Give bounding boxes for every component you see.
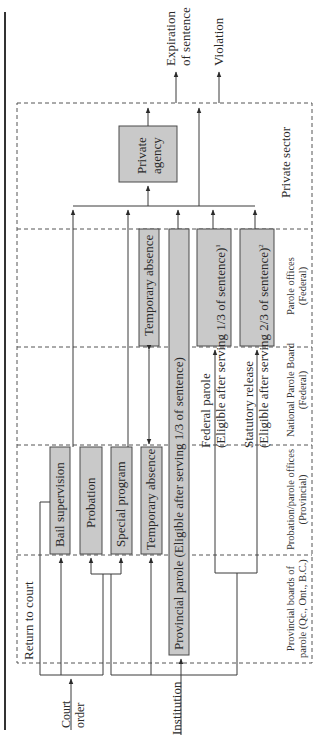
flow-diagram: [0, 0, 327, 745]
temporary-absence-provincial-label: Temporary absence: [144, 449, 159, 550]
statutory-release-label: Statutory release (Eligible after servin…: [242, 244, 272, 448]
private-sector-label: Private sector: [279, 127, 294, 198]
violation-label: Violation: [212, 18, 227, 66]
bail-supervision-label: Bail supervision: [53, 462, 68, 547]
parole-offices-federal-label: Parole offices (Federal): [285, 257, 309, 315]
court-order-label: Court order: [60, 701, 88, 728]
temporary-absence-federal-label: Temporary absence: [142, 235, 157, 336]
expiration-label: Expiration of sentence: [164, 7, 194, 66]
provincial-parole-label: Provincial parole (Eligible after servin…: [172, 357, 187, 650]
federal-parole-label: Federal parole (Eligible after serving 1…: [199, 244, 229, 448]
special-program-label: Special program: [114, 461, 129, 547]
footnote-2: 2: [257, 244, 265, 248]
probation-label: Probation: [84, 477, 99, 528]
provincial-boards-label: Provincial boards of parole (Qc., Ont., …: [285, 559, 309, 658]
private-agency-label: Private agency: [135, 137, 165, 174]
national-parole-board-label: National Parole Board (Federal): [285, 343, 309, 437]
return-to-court-label: Return to court: [22, 581, 37, 660]
footnote-1: 1: [214, 244, 222, 248]
probation-offices-provincial-label: Probation/parole offices (Provincial): [285, 449, 309, 550]
institution-label: Institution: [170, 682, 185, 735]
